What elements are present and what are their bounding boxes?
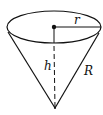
height-label: h: [44, 59, 52, 73]
slant-label: R: [83, 64, 93, 78]
height-line-dashed: [54, 46, 55, 107]
apex-point: [54, 107, 56, 109]
center-point: [52, 25, 56, 29]
cone-diagram: r h R: [0, 0, 103, 115]
radius-label: r: [74, 13, 81, 27]
cone-figure: r h R: [0, 0, 103, 115]
